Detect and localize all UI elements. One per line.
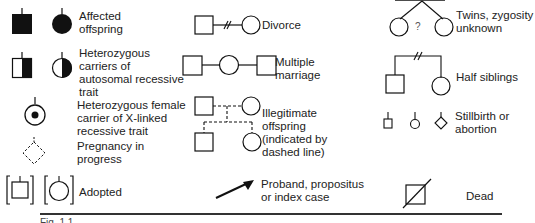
label-adopted: Adopted — [79, 186, 122, 199]
label-affected: Affected offspring — [79, 10, 149, 36]
adopted-female-icon — [43, 173, 75, 207]
caption-rule — [40, 213, 502, 215]
half-siblings-icon — [385, 52, 445, 96]
twins-icon — [385, 0, 465, 40]
twins-question-mark: ? — [415, 20, 421, 33]
pregnancy-icon — [20, 137, 48, 169]
divorce-icon — [194, 14, 264, 38]
affected-female-icon — [50, 8, 74, 38]
illegitimate-offspring-icon — [194, 95, 264, 165]
adopted-male-icon — [5, 173, 35, 207]
multiple-marriage-icon — [182, 54, 278, 78]
label-heterozygous-x: Heterozygous female carrier of X-linked … — [77, 99, 187, 138]
label-multiple-marriage: Multiple marriage — [275, 56, 335, 82]
stillbirth-icon — [383, 112, 463, 132]
label-divorce: Divorce — [262, 19, 301, 32]
label-twins: Twins, zygosity unknown — [456, 9, 534, 35]
proband-arrow-icon — [214, 178, 256, 200]
label-proband: Proband, propositus or index case — [261, 178, 371, 204]
dead-icon — [402, 178, 434, 210]
x-carrier-female-icon — [23, 97, 47, 129]
label-dead: Dead — [466, 190, 494, 203]
label-half-siblings: Half siblings — [456, 71, 518, 84]
carrier-female-icon — [50, 52, 74, 82]
affected-male-icon — [10, 8, 34, 38]
label-heterozygous-autosomal: Heterozygous carriers of autosomal reces… — [79, 47, 184, 99]
label-stillbirth: Stillbirth or abortion — [455, 110, 535, 136]
label-pregnancy: Pregnancy in progress — [77, 140, 167, 166]
carrier-male-icon — [10, 52, 34, 82]
label-illegitimate: Illegitimate offspring (indicated by das… — [262, 107, 357, 159]
figure-caption: Fig. 1.1 ... — [40, 218, 84, 223]
